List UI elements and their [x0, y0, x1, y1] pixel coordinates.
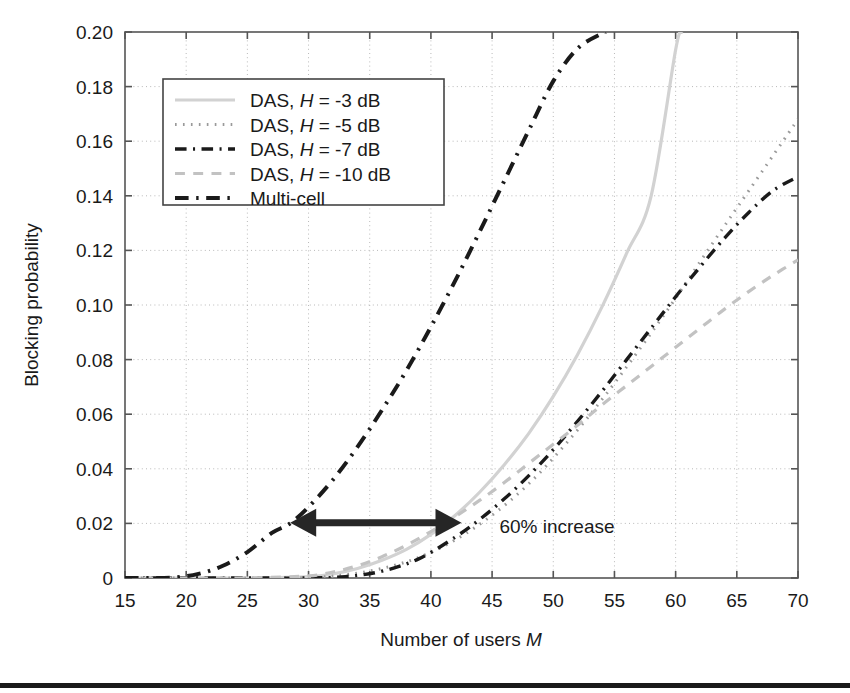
x-tick-label: 40: [420, 590, 441, 611]
legend-label-2: DAS, H = -7 dB: [250, 139, 380, 160]
blocking-probability-chart: 152025303540455055606570 00.020.040.060.…: [0, 0, 850, 693]
x-axis-title: Number of users M: [380, 629, 542, 650]
legend-label-0: DAS, H = -3 dB: [250, 90, 380, 111]
x-tick-label: 70: [787, 590, 808, 611]
y-tick-label: 0.20: [76, 22, 113, 43]
x-tick-label: 20: [176, 590, 197, 611]
legend-label-4: Multi-cell: [250, 188, 325, 209]
y-tick-label: 0.06: [76, 404, 113, 425]
y-tick-label: 0.04: [76, 459, 113, 480]
increase-label: 60% increase: [499, 516, 614, 537]
y-tick-label: 0.16: [76, 131, 113, 152]
x-tick-label: 45: [482, 590, 503, 611]
figure-container: 152025303540455055606570 00.020.040.060.…: [0, 0, 850, 693]
x-tick-label: 55: [604, 590, 625, 611]
y-axis-title: Blocking probability: [21, 223, 42, 387]
x-tick-label: 35: [359, 590, 380, 611]
legend-label-1: DAS, H = -5 dB: [250, 115, 380, 136]
y-tick-label: 0: [102, 568, 113, 589]
x-tick-label: 60: [665, 590, 686, 611]
y-tick-label: 0.10: [76, 295, 113, 316]
y-tick-label: 0.14: [76, 186, 113, 207]
legend-label-3: DAS, H = -10 dB: [250, 164, 391, 185]
y-tick-label: 0.08: [76, 350, 113, 371]
page-bottom-rule: [0, 683, 850, 688]
x-tick-label: 25: [237, 590, 258, 611]
y-tick-label: 0.02: [76, 513, 113, 534]
x-tick-label: 65: [726, 590, 747, 611]
legend: DAS, H = -3 dBDAS, H = -5 dBDAS, H = -7 …: [163, 79, 444, 209]
x-tick-label: 50: [543, 590, 564, 611]
y-tick-label: 0.18: [76, 77, 113, 98]
y-tick-label: 0.12: [76, 240, 113, 261]
x-tick-label: 15: [114, 590, 135, 611]
x-tick-label: 30: [298, 590, 319, 611]
